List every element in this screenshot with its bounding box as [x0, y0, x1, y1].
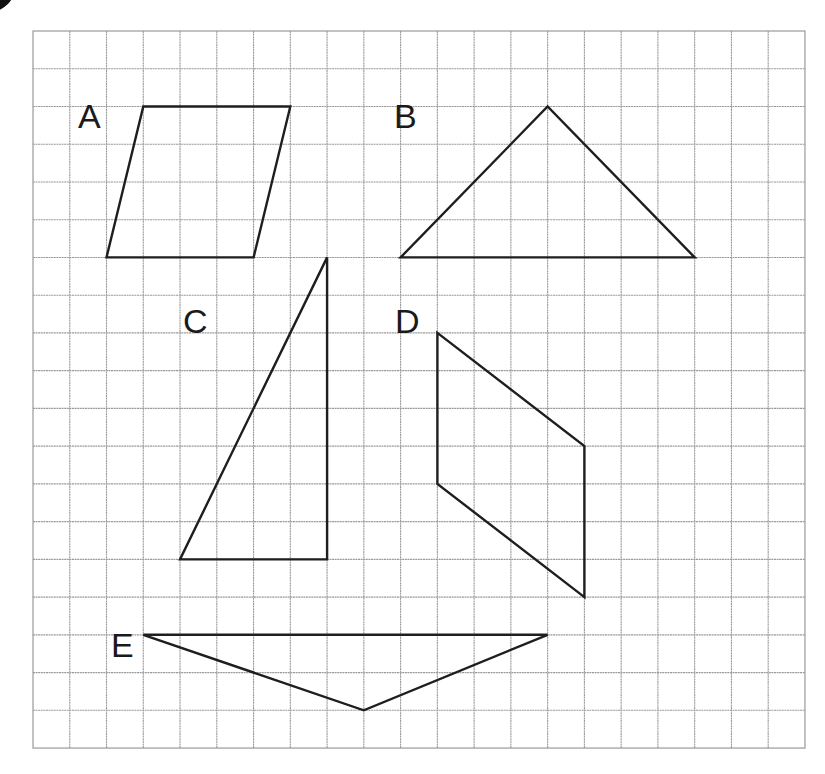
shape-label-b: B	[394, 97, 417, 135]
grid-figure: ABCDE	[0, 0, 825, 774]
shape-label-c: C	[183, 302, 208, 340]
square-grid	[33, 31, 805, 748]
corner-circle-mark	[0, 0, 17, 13]
shape-label-a: A	[78, 97, 101, 135]
shape-label-e: E	[111, 626, 134, 664]
shape-label-d: D	[395, 302, 420, 340]
grid-border	[33, 31, 805, 748]
